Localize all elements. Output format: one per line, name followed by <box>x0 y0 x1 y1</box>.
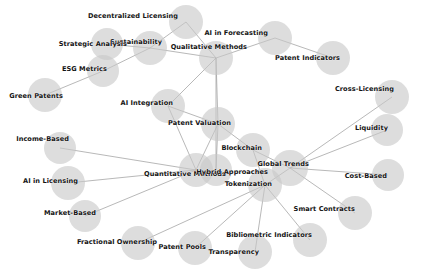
graph-node-label-income-based: Income-Based <box>16 136 69 143</box>
graph-node-label-transparency: Transparency <box>209 249 260 256</box>
graph-node-decentralized-licensing[interactable] <box>169 5 203 39</box>
graph-node-label-fractional-ownership: Fractional Ownership <box>77 239 157 246</box>
graph-node-label-strategic-analysis: Strategic Analysis <box>59 41 127 48</box>
graph-node-label-liquidity: Liquidity <box>355 125 388 132</box>
graph-node-label-blockchain: Blockchain <box>221 145 262 152</box>
graph-node-label-cost-based: Cost-Based <box>345 173 387 180</box>
graph-node-label-market-based: Market-Based <box>44 210 96 217</box>
graph-node-label-smart-contracts: Smart Contracts <box>294 206 355 213</box>
graph-node-label-green-patents: Green Patents <box>9 93 63 100</box>
graph-node-label-global-trends: Global Trends <box>258 161 309 168</box>
graph-node-label-patent-indicators: Patent Indicators <box>275 55 340 62</box>
graph-node-label-ai-integration: AI Integration <box>121 100 173 107</box>
network-graph: Decentralized LicensingAI in Forecasting… <box>0 0 436 273</box>
graph-node-label-ai-in-forecasting: AI in Forecasting <box>204 30 268 37</box>
graph-node-label-patent-valuation: Patent Valuation <box>168 120 231 127</box>
graph-node-label-esg-metrics: ESG Metrics <box>62 66 107 73</box>
graph-node-label-tokenization: Tokenization <box>225 181 272 188</box>
graph-node-label-patent-pools: Patent Pools <box>158 244 206 251</box>
graph-node-bibliometric-indicators[interactable] <box>293 223 327 257</box>
graph-node-sustainability[interactable] <box>133 31 167 65</box>
graph-node-smart-contracts[interactable] <box>338 196 372 230</box>
graph-node-label-qualitative-methods: Qualitative Methods <box>171 44 247 51</box>
node-layer: Decentralized LicensingAI in Forecasting… <box>0 0 436 273</box>
graph-node-ai-in-forecasting[interactable] <box>258 21 292 55</box>
graph-node-label-decentralized-licensing: Decentralized Licensing <box>88 13 178 20</box>
graph-node-label-ai-in-licensing: AI in Licensing <box>23 178 78 185</box>
graph-node-label-bibliometric-indicators: Bibliometric Indicators <box>226 232 312 239</box>
graph-node-label-cross-licensing: Cross-Licensing <box>335 86 394 93</box>
graph-node-label-hybrid-approaches: Hybrid Approaches <box>196 169 268 176</box>
